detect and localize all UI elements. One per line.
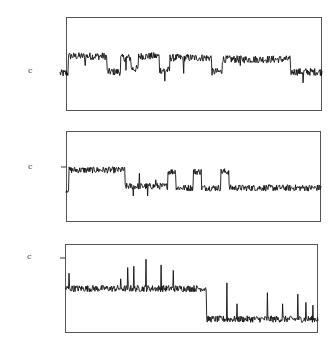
trace-panel-3: c bbox=[27, 245, 318, 333]
closed-level-label: c bbox=[28, 162, 33, 171]
closed-level-label: c bbox=[28, 66, 33, 75]
trace-panel-2: c bbox=[28, 132, 321, 222]
panel-frame bbox=[67, 18, 322, 111]
trace-panel-1: c bbox=[28, 18, 322, 111]
chart-figure: c c c bbox=[0, 0, 334, 346]
closed-level-label: c bbox=[27, 252, 32, 261]
current-trace bbox=[65, 259, 318, 322]
current-trace bbox=[60, 53, 322, 83]
current-trace bbox=[66, 167, 321, 196]
